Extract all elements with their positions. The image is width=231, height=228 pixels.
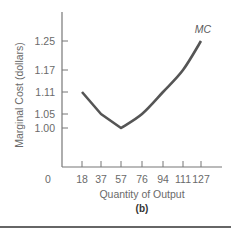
x-tick-label: 94 xyxy=(157,173,169,185)
y-tick-label: 1.11 xyxy=(35,86,55,98)
y-tick-label: 1.25 xyxy=(35,35,56,47)
x-tick-label: 37 xyxy=(95,173,107,185)
x-tick-label: 18 xyxy=(76,173,88,185)
x-tick-label: 57 xyxy=(115,173,127,185)
x-tick-label: 111 xyxy=(175,173,191,185)
x-axis-title: Quantity of Output xyxy=(99,188,184,200)
marginal-cost-chart: Marginal Cost (dollars) 1.001.051.111.17… xyxy=(0,0,231,228)
y-tick-label: 1.05 xyxy=(35,108,56,120)
panel-label: (b) xyxy=(136,203,149,214)
x-origin-label: 0 xyxy=(45,173,51,185)
y-axis-title: Marginal Cost (dollars) xyxy=(13,42,25,148)
x-tick-label: 76 xyxy=(136,173,148,185)
x-tick-label: 127 xyxy=(192,173,210,185)
mc-series-label: MC xyxy=(195,23,212,35)
y-tick-label: 1.17 xyxy=(35,64,56,76)
y-ticks: 1.001.051.111.171.25 xyxy=(35,35,68,134)
mc-curve xyxy=(82,41,201,128)
x-ticks: 1837577694111127 xyxy=(76,161,210,185)
y-tick-label: 1.00 xyxy=(35,122,56,134)
